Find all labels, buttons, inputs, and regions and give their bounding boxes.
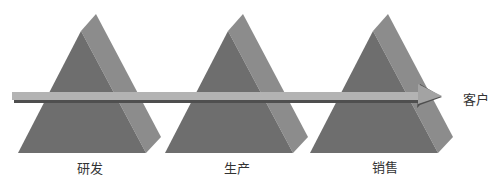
stage-label-research: 研发	[77, 158, 103, 177]
pyramid-sales	[310, 14, 453, 153]
pyramid-research	[18, 14, 161, 153]
value-chain-diagram: 研发 生产 销售 客户	[0, 0, 504, 189]
target-label-customer: 客户	[463, 89, 489, 108]
stage-label-production: 生产	[224, 158, 250, 177]
diagram-canvas	[0, 0, 504, 189]
pyramid-production	[165, 14, 308, 153]
stage-label-sales: 销售	[372, 157, 398, 176]
